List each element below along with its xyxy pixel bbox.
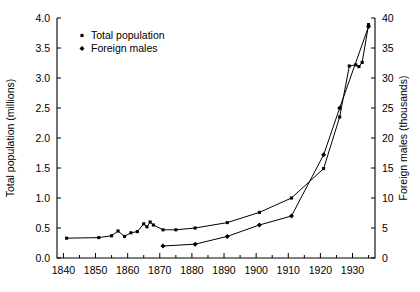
x-axis-tick-label: 1880 [180,264,204,276]
data-point-marker [129,231,132,234]
legend-marker-diamond [80,46,85,51]
y2-axis-title: Foreign males (thousands) [397,76,409,201]
data-point-marker [161,228,164,231]
legend-label: Foreign males [91,42,158,54]
data-point-marker [225,234,230,239]
data-point-marker [123,235,126,238]
y-axis-tick-label: 3.5 [35,42,50,54]
data-point-marker [149,220,152,223]
series-line [67,25,369,239]
y2-axis-tick-label: 5 [382,222,388,234]
y2-axis-tick-label: 15 [382,162,394,174]
x-axis-tick-label: 1910 [277,264,301,276]
y2-axis-tick-label: 25 [382,102,394,114]
data-point-marker [116,229,119,232]
data-point-marker [136,230,139,233]
data-point-marker [338,115,341,118]
y2-axis-tick-label: 0 [382,252,388,264]
data-point-marker [110,234,113,237]
data-point-marker [258,211,261,214]
data-point-marker [289,214,294,219]
x-axis-tick-label: 1900 [244,264,268,276]
data-point-marker [161,244,166,249]
series-total-population [65,23,370,240]
data-point-marker [366,24,371,29]
x-axis-tick-label: 1930 [341,264,365,276]
legend: Total populationForeign males [80,29,165,54]
data-point-marker [321,152,326,157]
data-point-marker [142,222,145,225]
legend-marker-square [80,34,83,37]
dual-axis-line-chart: 0.00.51.01.52.02.53.03.54.00510152025303… [0,0,420,292]
y-axis-title: Total population (millions) [4,79,16,197]
legend-label: Total population [91,29,165,41]
y-axis-tick-label: 0.5 [35,222,50,234]
data-point-marker [97,236,100,239]
data-point-marker [152,223,155,226]
y2-axis-tick-label: 35 [382,42,394,54]
chart-container: 0.00.51.01.52.02.53.03.54.00510152025303… [0,0,420,292]
data-point-marker [65,237,68,240]
y-axis-tick-label: 1.5 [35,162,50,174]
x-axis-tick-label: 1840 [52,264,76,276]
y-axis-tick-label: 4.0 [35,12,50,24]
data-point-marker [357,65,360,68]
series-foreign-males [161,24,372,249]
y2-axis-tick-label: 20 [382,132,394,144]
data-point-marker [257,223,262,228]
data-point-marker [194,226,197,229]
data-point-marker [193,242,198,247]
y-axis-tick-label: 2.0 [35,132,50,144]
plot-frame [57,18,375,258]
x-axis-tick-label: 1890 [212,264,236,276]
data-point-marker [290,196,293,199]
y-axis-tick-label: 1.0 [35,192,50,204]
y2-axis-tick-label: 10 [382,192,394,204]
y2-axis-tick-label: 30 [382,72,394,84]
data-point-marker [361,61,364,64]
data-point-marker [145,225,148,228]
y-axis-tick-label: 2.5 [35,102,50,114]
x-axis-tick-label: 1870 [148,264,172,276]
data-point-marker [226,221,229,224]
x-axis-tick-label: 1860 [116,264,140,276]
data-point-marker [322,167,325,170]
data-point-marker [348,64,351,67]
data-point-marker [174,228,177,231]
y2-axis-tick-label: 40 [382,12,394,24]
x-axis-tick-label: 1850 [84,264,108,276]
y-axis-tick-label: 0.0 [35,252,50,264]
x-axis-tick-label: 1920 [309,264,333,276]
series-line [163,26,369,246]
y-axis-tick-label: 3.0 [35,72,50,84]
